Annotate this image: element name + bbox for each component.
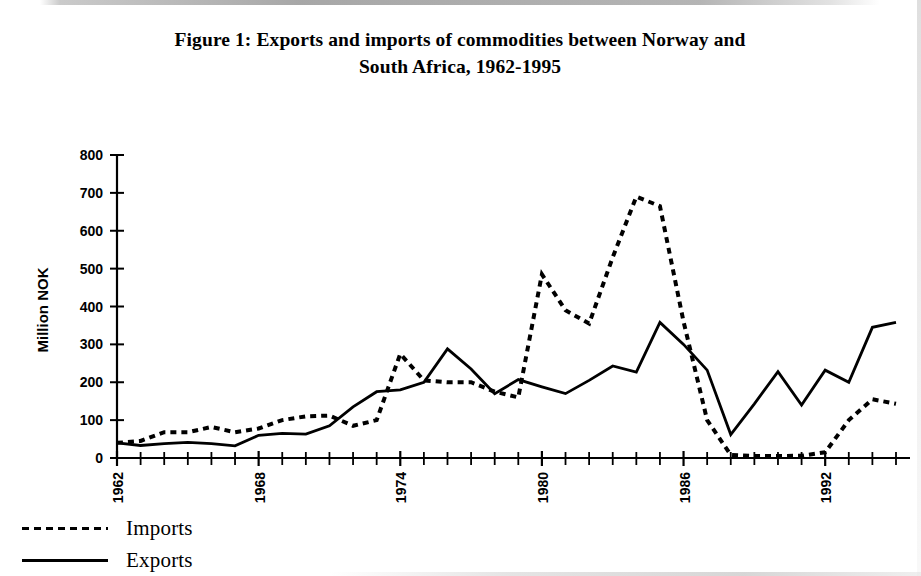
series-line-exports (117, 322, 896, 445)
legend-label-imports: Imports (126, 517, 193, 539)
data-series-group (117, 197, 896, 456)
x-tick-label: 1974 (393, 472, 409, 503)
y-axis-title-text: Million NOK (34, 267, 51, 352)
chart-legend: Imports Exports (22, 512, 442, 576)
series-line-imports (117, 197, 896, 456)
y-axis-title: Million NOK (34, 267, 51, 352)
y-tick-label: 0 (95, 450, 103, 466)
dashed-line-swatch-icon (22, 521, 108, 535)
y-tick-label: 100 (80, 412, 104, 428)
solid-line-swatch-icon (22, 553, 108, 567)
x-tick-label: 1962 (110, 472, 126, 503)
y-tick-label: 200 (80, 374, 104, 390)
x-tick-label: 1986 (677, 472, 693, 503)
y-tick-label: 600 (80, 223, 104, 239)
chart-plot-area: Million NOK 0100200300400500600700800 19… (0, 0, 921, 520)
legend-item-exports: Exports (22, 544, 442, 576)
line-chart-svg: Million NOK 0100200300400500600700800 19… (0, 0, 921, 520)
y-tick-label: 500 (80, 261, 104, 277)
legend-item-imports: Imports (22, 512, 442, 544)
y-tick-label: 400 (80, 299, 104, 315)
y-tick-label: 300 (80, 336, 104, 352)
x-tick-label: 1980 (535, 472, 551, 503)
x-tick-label: 1968 (252, 472, 268, 503)
x-tick-label: 1992 (818, 472, 834, 503)
y-tick-label: 700 (80, 185, 104, 201)
y-tick-label: 800 (80, 147, 104, 163)
legend-label-exports: Exports (126, 549, 193, 571)
axis-lines (117, 155, 910, 458)
